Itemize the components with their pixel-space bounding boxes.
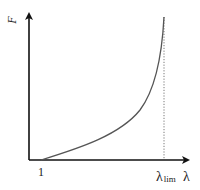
lambda-lim-label: λlim: [156, 170, 176, 184]
lambda-lim-subscript: lim: [164, 174, 176, 184]
y-axis-label: F: [6, 16, 18, 23]
f-lambda-curve: [41, 17, 164, 160]
diagram-canvas: [0, 0, 200, 190]
lambda-lim-symbol: λ: [156, 169, 163, 184]
x-tick-one-label: 1: [38, 166, 44, 178]
x-axis-label: λ: [183, 170, 190, 184]
